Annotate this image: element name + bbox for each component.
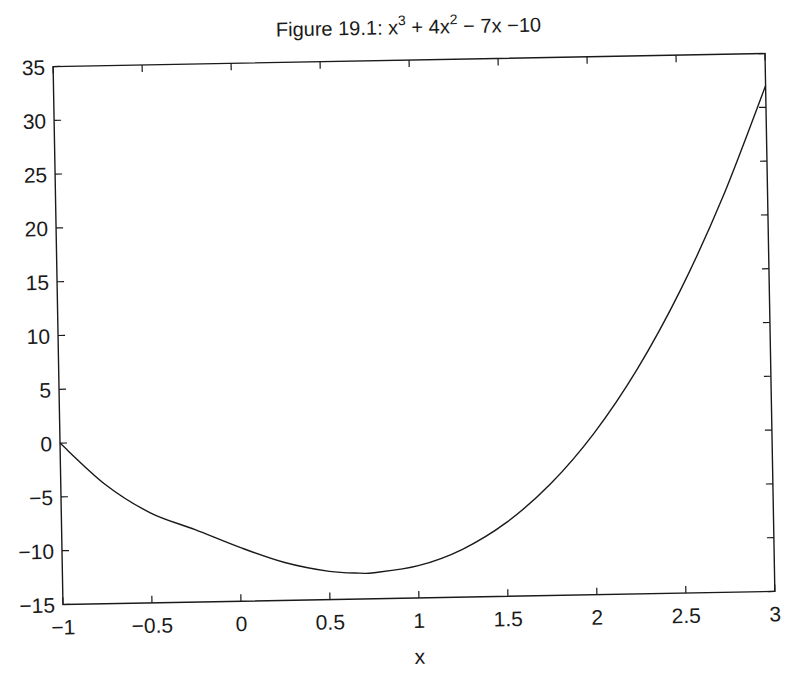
series-line: [54, 86, 775, 579]
x-tick-label: 2: [591, 606, 603, 629]
y-tick-label: 5: [39, 378, 51, 401]
x-tick-label: 1.5: [493, 607, 523, 631]
y-tick-label: 20: [25, 217, 49, 240]
y-tick-label: −10: [18, 540, 54, 564]
y-tick-label: 10: [26, 325, 50, 348]
line-chart: Figure 19.1: x3 + 4x2 − 7x −10 −1−0.500.…: [0, 0, 786, 674]
x-tick-label: 3: [769, 602, 781, 625]
plot-area: [54, 86, 775, 579]
y-tick-label: 35: [22, 56, 46, 79]
y-tick-label: −15: [19, 594, 55, 618]
y-tick-label: −5: [29, 486, 53, 509]
plot-axes: −1−0.500.511.522.53−15−10−50510152025303…: [9, 42, 781, 639]
plot-frame: [53, 54, 775, 605]
x-tick-label: 1: [413, 609, 425, 632]
x-tick-label: 0: [235, 612, 247, 635]
y-tick-label: 30: [23, 110, 47, 133]
y-tick-label: 0: [40, 432, 52, 455]
x-axis-label: x: [415, 645, 426, 668]
y-tick-label: 15: [25, 271, 49, 294]
figure: Figure 19.1: x3 + 4x2 − 7x −10 −1−0.500.…: [0, 0, 786, 674]
x-tick-label: 2.5: [671, 604, 701, 628]
y-tick-label: 25: [24, 163, 48, 186]
x-tick-label: −1: [51, 615, 75, 638]
x-tick-label: −0.5: [131, 613, 173, 637]
chart-title: Figure 19.1: x3 + 4x2 − 7x −10: [276, 10, 542, 41]
x-tick-label: 0.5: [316, 610, 346, 634]
